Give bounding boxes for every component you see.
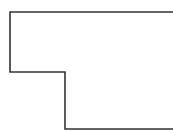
stepped-outline-shape [10, 12, 173, 129]
diagram-canvas [0, 0, 173, 131]
